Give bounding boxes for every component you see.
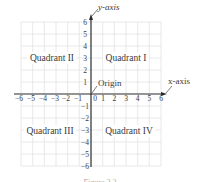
x-tick-label: −5 xyxy=(27,94,35,103)
x-axis-leader-line xyxy=(166,86,172,93)
x-tick-label: 3 xyxy=(124,94,128,103)
x-tick-label: 2 xyxy=(112,94,116,103)
quadrant-ii-label: Quadrant II xyxy=(30,53,74,63)
y-tick-label: −3 xyxy=(81,126,89,135)
figure-caption: Figure 2.2 xyxy=(84,178,117,182)
x-tick-label: −4 xyxy=(39,94,47,103)
y-axis-label: y-axis xyxy=(97,2,120,12)
origin-leader-line xyxy=(92,86,97,93)
coordinate-plane-svg: y-axis x-axis Origin 6 5 4 3 2 1 −1 −2 −… xyxy=(0,0,204,182)
y-tick-label: −4 xyxy=(81,138,89,147)
x-tick-label: −3 xyxy=(51,94,59,103)
y-axis-arrow-icon xyxy=(89,14,93,20)
x-tick-label: 6 xyxy=(159,94,163,103)
y-tick-label: 4 xyxy=(83,42,87,51)
y-tick-label: 5 xyxy=(83,30,87,39)
origin-label: Origin xyxy=(98,78,122,88)
x-tick-label: 0 xyxy=(93,94,97,103)
y-ticks-negative: −1 −2 −3 −4 −5 −6 xyxy=(81,102,89,171)
quadrant-iii-label: Quadrant III xyxy=(26,126,73,136)
y-tick-label: −6 xyxy=(81,162,89,171)
x-ticks: −6 −5 −4 −3 −2 −1 0 1 2 3 4 5 6 xyxy=(15,94,163,103)
y-tick-label: −2 xyxy=(81,114,89,123)
x-tick-label: 5 xyxy=(147,94,151,103)
quadrant-i-label: Quadrant I xyxy=(106,53,147,63)
x-tick-label: −6 xyxy=(15,94,23,103)
y-tick-label: −5 xyxy=(81,150,89,159)
x-axis-label: x-axis xyxy=(168,76,190,86)
y-tick-label: −1 xyxy=(81,102,89,111)
y-tick-label: 6 xyxy=(83,18,87,27)
y-tick-label: 3 xyxy=(83,54,87,63)
x-tick-label: 1 xyxy=(101,94,105,103)
coordinate-plane-figure: y-axis x-axis Origin 6 5 4 3 2 1 −1 −2 −… xyxy=(0,0,204,182)
y-ticks-positive: 6 5 4 3 2 1 xyxy=(83,18,87,87)
x-tick-label: −1 xyxy=(74,94,82,103)
y-tick-label: 2 xyxy=(83,66,87,75)
y-tick-label: 1 xyxy=(83,78,87,87)
x-tick-label: −2 xyxy=(62,94,70,103)
quadrant-iv-label: Quadrant IV xyxy=(105,126,153,136)
x-tick-label: 4 xyxy=(136,94,140,103)
